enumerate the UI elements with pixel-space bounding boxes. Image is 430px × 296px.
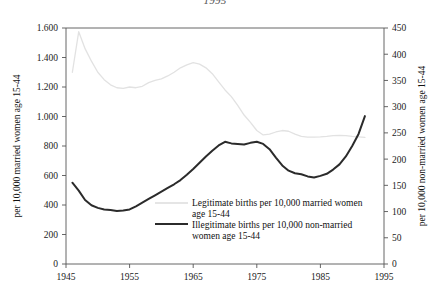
x-tick-label: 1995 [375, 272, 394, 282]
series-line-legitimate [72, 32, 365, 138]
left-tick-label: 1.200 [37, 82, 59, 92]
data-series-group [72, 32, 365, 211]
legend-label-illegitimate-line1: Illegitimate births per 10,000 non-marri… [192, 220, 352, 230]
left-axis-title: per 10,000 married women age 15-44 [12, 74, 22, 217]
x-tick-label: 1955 [120, 272, 139, 282]
left-tick-label: 1.400 [37, 53, 59, 63]
left-tick-label: 1.600 [37, 23, 59, 33]
right-axis-ticks: 050100150200250300350400450 [384, 23, 407, 269]
right-tick-label: 150 [392, 181, 407, 191]
right-tick-label: 0 [392, 259, 397, 269]
x-tick-label: 1965 [184, 272, 203, 282]
x-tick-label: 1975 [247, 272, 266, 282]
left-axis-ticks: 02004006008001.0001.2001.4001.600 [37, 23, 66, 269]
left-tick-label: 1.000 [37, 112, 59, 122]
right-tick-label: 400 [392, 50, 407, 60]
x-axis-ticks: 194519551965197519851995 [57, 264, 394, 282]
legend-label-legitimate-line1: Legitimate births per 10,000 married wom… [192, 198, 363, 208]
right-tick-label: 300 [392, 102, 407, 112]
left-tick-label: 200 [44, 230, 59, 240]
series-line-illegitimate [72, 116, 365, 211]
legend-label-legitimate-line2: age 15-44 [192, 209, 230, 219]
right-tick-label: 100 [392, 207, 407, 217]
left-tick-label: 0 [53, 259, 58, 269]
right-tick-label: 250 [392, 128, 407, 138]
right-tick-label: 200 [392, 155, 407, 165]
chart-container: 1995 02004006008001.0001.2001.4001.600 0… [0, 0, 430, 296]
legend-label-illegitimate-line2: women age 15-44 [192, 231, 260, 241]
left-tick-label: 400 [44, 200, 59, 210]
right-axis-title: per 10,000 non-married women age 15-44 [417, 66, 427, 227]
chart-plot-area: 02004006008001.0001.2001.4001.600 050100… [0, 0, 430, 296]
left-tick-label: 600 [44, 171, 59, 181]
right-tick-label: 450 [392, 23, 407, 33]
x-tick-label: 1985 [311, 272, 330, 282]
x-tick-label: 1945 [57, 272, 76, 282]
right-tick-label: 350 [392, 76, 407, 86]
right-tick-label: 50 [392, 233, 402, 243]
chart-legend: Legitimate births per 10,000 married wom… [155, 198, 363, 241]
left-tick-label: 800 [44, 141, 59, 151]
